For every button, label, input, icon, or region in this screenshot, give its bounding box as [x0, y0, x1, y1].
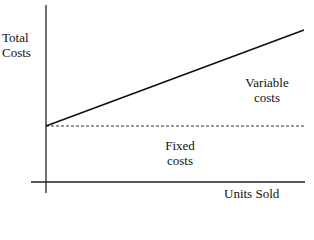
variable-costs-line1: Variable	[232, 75, 302, 90]
y-axis-label-line2: Costs	[2, 45, 31, 60]
fixed-costs-label: Fixed costs	[155, 138, 205, 168]
y-axis-label-line1: Total	[2, 30, 31, 45]
fixed-costs-line1: Fixed	[155, 138, 205, 153]
variable-costs-label: Variable costs	[232, 75, 302, 105]
x-axis-label: Units Sold	[224, 186, 279, 199]
y-axis-label: Total Costs	[2, 30, 31, 60]
variable-costs-line2: costs	[232, 90, 302, 105]
fixed-costs-line2: costs	[155, 153, 205, 168]
